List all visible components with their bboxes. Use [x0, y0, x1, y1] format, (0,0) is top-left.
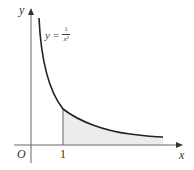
- x-axis-label: x: [179, 149, 184, 161]
- graph-canvas: [0, 0, 194, 170]
- equation-lhs: y: [45, 29, 50, 41]
- equation-label: y = 1 x²: [45, 26, 70, 43]
- tick-label-1: 1: [60, 148, 66, 160]
- y-axis-arrow-icon: [28, 8, 34, 15]
- equation-equals: =: [53, 29, 59, 41]
- shaded-region: [63, 109, 163, 145]
- fraction-numerator: 1: [64, 26, 68, 33]
- y-axis-label: y: [19, 4, 24, 16]
- fraction-denominator: x²: [64, 36, 69, 43]
- equation-fraction: 1 x²: [62, 26, 70, 43]
- origin-label: O: [17, 148, 26, 160]
